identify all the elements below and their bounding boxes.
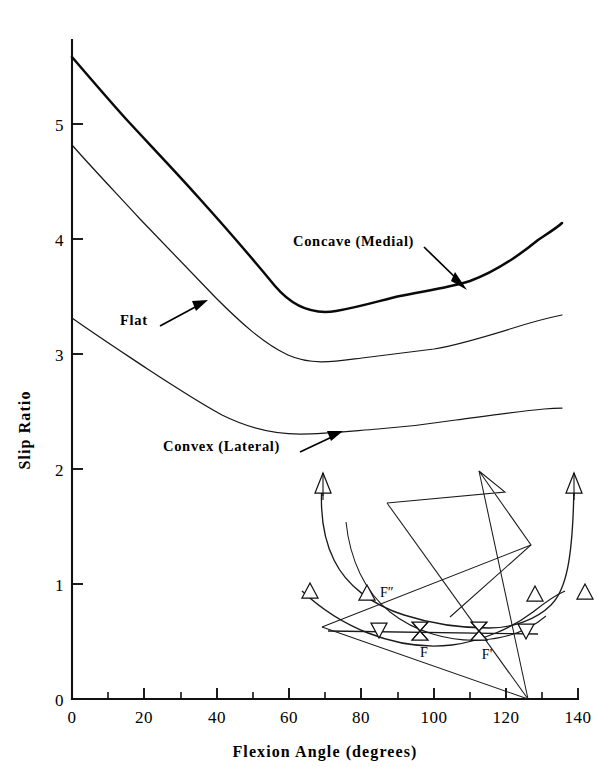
curve-label-convex: Convex (Lateral) — [163, 438, 280, 455]
curve-label-flat: Flat — [120, 312, 148, 328]
x-tick-label-40: 40 — [208, 708, 226, 727]
annotation-concave: Concave (Medial) — [293, 233, 467, 290]
x-tick-label-140: 140 — [565, 708, 592, 727]
x-tick-label-20: 20 — [135, 708, 153, 727]
up-triangle-marker-right — [527, 586, 543, 601]
y-tick-label-5: 5 — [55, 116, 64, 135]
inset-baseline — [328, 631, 538, 634]
annotation-flat: Flat — [120, 300, 208, 328]
x-tick-label-120: 120 — [493, 708, 520, 727]
curve-label-concave: Concave (Medial) — [293, 233, 414, 250]
arrowhead-flat-icon — [192, 300, 208, 311]
slip-ratio-chart: 0 1 2 3 4 5 0 20 40 60 80 100 120 140 Sl… — [0, 0, 606, 767]
arrow-triangle-marker-right — [566, 473, 582, 500]
y-axis-ticks — [72, 124, 83, 699]
arrow-triangle-marker-left — [315, 473, 331, 500]
inset-arc-left-outer — [322, 484, 490, 628]
inset-label-f-double-prime: F″ — [380, 585, 394, 600]
y-tick-label-1: 1 — [55, 576, 64, 595]
x-tick-label-0: 0 — [68, 708, 77, 727]
inset-label-f-prime: F' — [482, 647, 492, 662]
knee-kinematics-inset: F F' F″ — [302, 471, 593, 699]
y-tick-label-4: 4 — [55, 231, 64, 250]
annotation-convex: Convex (Lateral) — [163, 431, 343, 455]
x-tick-label-80: 80 — [352, 708, 370, 727]
up-triangle-marker-far-left — [302, 583, 318, 598]
y-tick-label-2: 2 — [55, 461, 64, 480]
y-axis-title: Slip Ratio — [16, 390, 34, 469]
y-axis-tick-labels: 0 1 2 3 4 5 — [55, 116, 64, 710]
inset-polygon — [387, 471, 531, 617]
bowtie-marker-f-prime — [471, 622, 487, 640]
y-tick-label-3: 3 — [55, 346, 64, 365]
inset-arc-lower-right — [452, 591, 565, 645]
curve-flat — [72, 145, 562, 362]
curve-concave-medial — [72, 57, 562, 312]
x-axis-title: Flexion Angle (degrees) — [233, 743, 418, 761]
x-axis-tick-labels: 0 20 40 60 80 100 120 140 — [68, 708, 592, 727]
arrowhead-convex-icon — [327, 431, 343, 441]
up-triangle-marker-far-right — [577, 584, 593, 599]
x-tick-label-60: 60 — [280, 708, 298, 727]
figure-root: 0 1 2 3 4 5 0 20 40 60 80 100 120 140 Sl… — [0, 0, 606, 767]
leader-line-convex — [300, 436, 334, 452]
y-tick-label-0: 0 — [55, 691, 64, 710]
x-tick-label-100: 100 — [421, 708, 448, 727]
inset-label-f: F — [420, 645, 428, 660]
leader-line-flat — [160, 305, 199, 326]
bowtie-marker-f — [412, 622, 428, 640]
